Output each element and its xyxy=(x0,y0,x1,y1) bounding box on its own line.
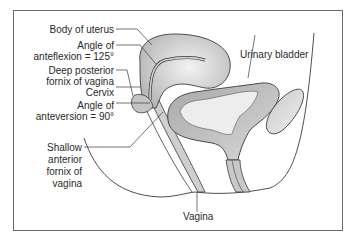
label-angle-anteversion-1: Angle of xyxy=(20,100,114,111)
label-angle-anteflexion-1: Angle of xyxy=(20,40,114,51)
label-angle-anteflexion-2: anteflexion = 125° xyxy=(20,51,114,62)
label-shallow-anterior-fornix-4: vagina xyxy=(30,178,82,189)
label-shallow-anterior-fornix-2: anterior xyxy=(30,154,82,165)
label-deep-posterior-fornix-2: fornix of vagina xyxy=(20,76,114,87)
label-angle-anteversion-2: anteversion = 90° xyxy=(20,111,114,122)
label-deep-posterior-fornix-1: Deep posterior xyxy=(20,65,114,76)
label-vagina: Vagina xyxy=(183,211,213,222)
label-body-of-uterus: Body of uterus xyxy=(30,24,114,35)
label-shallow-anterior-fornix-1: Shallow xyxy=(30,142,82,153)
urethra xyxy=(226,160,250,192)
label-urinary-bladder: Urinary bladder xyxy=(240,49,308,60)
label-cervix: Cervix xyxy=(20,87,114,98)
label-shallow-anterior-fornix-3: fornix of xyxy=(30,166,82,177)
